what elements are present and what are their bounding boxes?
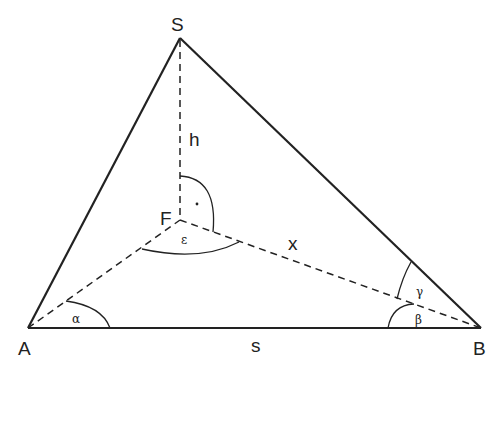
edge-AS <box>28 38 180 328</box>
segment-label-h: h <box>189 129 200 150</box>
point-label-A: A <box>18 338 31 359</box>
segment-label-x: x <box>288 233 298 254</box>
angle-label-epsilon: ε <box>181 233 187 247</box>
segment-FB <box>180 220 481 328</box>
angle-label-beta: β <box>415 313 422 327</box>
angle-gamma-arc <box>397 262 411 299</box>
angle-label-alpha: α <box>72 312 80 326</box>
angle-label-gamma: γ <box>416 285 423 299</box>
point-label-F: F <box>160 208 172 229</box>
segment-label-s: s <box>251 335 261 356</box>
point-label-B: B <box>473 338 486 359</box>
angle-beta-arc <box>388 304 414 328</box>
right-angle-dot <box>196 203 199 206</box>
pyramid-diagram: S A B F h x s α β γ ε <box>0 0 489 436</box>
point-label-S: S <box>171 14 184 35</box>
edge-SB <box>180 38 481 328</box>
segment-AF <box>28 220 180 328</box>
angle-epsilon-arc <box>142 242 239 254</box>
